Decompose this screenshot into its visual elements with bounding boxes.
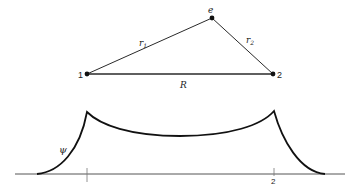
diagram-svg: 1 2 e r1 r2 R 2 1 ψ — [0, 0, 356, 192]
tick-2-label: 2 — [271, 177, 276, 186]
tick-1-label: 1 — [84, 177, 89, 186]
edge-r2 — [212, 18, 273, 74]
vertex-2-label: 2 — [277, 70, 282, 80]
vertex-e-dot — [210, 16, 215, 21]
psi-curve — [37, 111, 325, 174]
edge-r1 — [87, 18, 212, 74]
vertex-1-dot — [85, 72, 90, 77]
edge-r1-label: r1 — [139, 38, 147, 49]
vertex-2-dot — [271, 72, 276, 77]
edge-R-label: R — [179, 80, 187, 90]
diagram-canvas: 1 2 e r1 r2 R 2 1 ψ — [0, 0, 356, 192]
vertex-e-label: e — [208, 5, 213, 15]
vertex-1-label: 1 — [78, 70, 83, 80]
psi-label: ψ — [59, 144, 67, 155]
edge-r2-label: r2 — [246, 35, 254, 46]
